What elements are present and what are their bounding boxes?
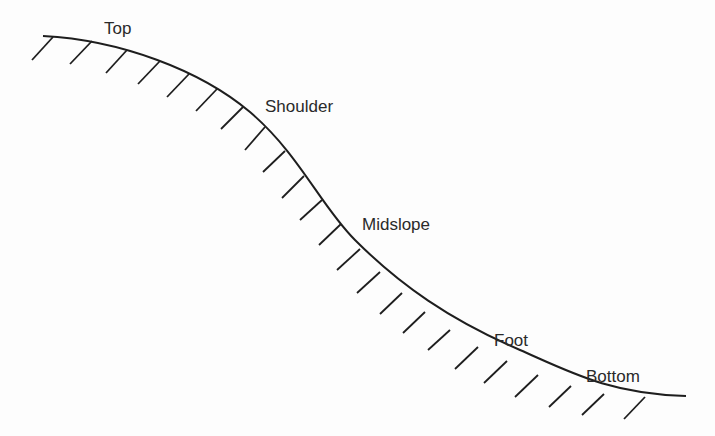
label-top: Top [104, 20, 131, 37]
label-shoulder: Shoulder [265, 98, 333, 115]
ground-hatching [32, 37, 645, 419]
label-bottom: Bottom [586, 368, 640, 385]
slope-profile-diagram: Top Shoulder Midslope Foot Bottom [0, 0, 715, 436]
label-foot: Foot [494, 332, 528, 349]
label-midslope: Midslope [362, 216, 430, 233]
